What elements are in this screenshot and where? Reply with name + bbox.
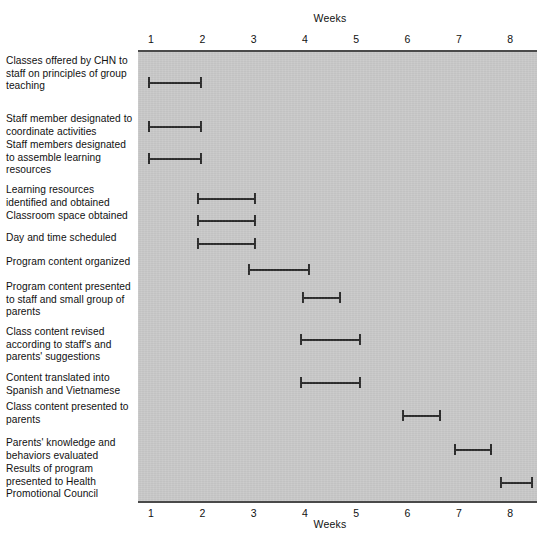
gantt-bar [197, 193, 256, 204]
gantt-bar-end-cap [359, 334, 361, 345]
task-label: Content translated into Spanish and Viet… [6, 372, 134, 397]
gantt-plot-area [138, 50, 537, 503]
gantt-bar [148, 153, 202, 164]
gantt-bar [197, 238, 256, 249]
x-axis-tick-top-3: 3 [242, 32, 266, 46]
gantt-bar-start-cap [148, 77, 150, 88]
gantt-bar-start-cap [500, 477, 502, 488]
task-label: Classroom space obtained [6, 210, 134, 223]
x-axis-tick-top-4: 4 [293, 32, 317, 46]
gantt-bar-end-cap [308, 264, 310, 275]
task-label: Classes offered by CHN to staff on princ… [6, 55, 134, 93]
gantt-bar-end-cap [200, 77, 202, 88]
gantt-bar [248, 264, 310, 275]
gantt-bar-end-cap [200, 153, 202, 164]
gantt-bar-end-cap [359, 377, 361, 388]
gantt-bar [148, 77, 202, 88]
gantt-bar-end-cap [490, 444, 492, 455]
gantt-bar-start-cap [302, 292, 304, 303]
gantt-bar-start-cap [248, 264, 250, 275]
gantt-bar [148, 121, 202, 132]
gantt-bar [402, 410, 440, 421]
gantt-bar-end-cap [439, 410, 441, 421]
gantt-bar [197, 215, 256, 226]
gantt-bar-line [500, 482, 533, 484]
task-label: Results of program presented to Health P… [6, 463, 134, 501]
gantt-bar-start-cap [300, 334, 302, 345]
x-axis-tick-top-7: 7 [447, 32, 471, 46]
gantt-bar-end-cap [531, 477, 533, 488]
gantt-bar [454, 444, 492, 455]
gantt-bar-line [197, 220, 256, 222]
top-axis-tick-row: 12345678 [0, 32, 552, 46]
gantt-bar-line [148, 82, 202, 84]
x-axis-tick-bottom-3: 3 [242, 506, 266, 520]
gantt-bar-line [300, 339, 362, 341]
task-label: Staff members designated to assemble lea… [6, 139, 134, 177]
gantt-bar-end-cap [200, 121, 202, 132]
x-axis-tick-bottom-7: 7 [447, 506, 471, 520]
x-axis-tick-top-5: 5 [344, 32, 368, 46]
gantt-bar-line [300, 382, 362, 384]
gantt-bar [500, 477, 533, 488]
gantt-bar-start-cap [454, 444, 456, 455]
gantt-bar-line [402, 415, 440, 417]
task-label: Day and time scheduled [6, 232, 134, 245]
gantt-chart-page: Weeks 12345678 Classes offered by CHN to… [0, 0, 552, 543]
x-axis-tick-top-6: 6 [396, 32, 420, 46]
gantt-bar [302, 292, 340, 303]
bottom-axis-tick-row: 12345678 [0, 506, 552, 520]
task-label-column: Classes offered by CHN to staff on princ… [0, 50, 134, 503]
task-label: Class content revised according to staff… [6, 326, 134, 364]
x-axis-tick-top-1: 1 [139, 32, 163, 46]
gantt-bar-start-cap [300, 377, 302, 388]
task-label: Staff member designated to coordinate ac… [6, 113, 134, 138]
gantt-bar-end-cap [254, 215, 256, 226]
gantt-bar-end-cap [254, 238, 256, 249]
x-axis-tick-top-2: 2 [190, 32, 214, 46]
x-axis-tick-bottom-6: 6 [396, 506, 420, 520]
task-label: Program content organized [6, 256, 134, 269]
x-axis-tick-bottom-2: 2 [190, 506, 214, 520]
x-axis-tick-top-8: 8 [498, 32, 522, 46]
gantt-bar-end-cap [254, 193, 256, 204]
task-label: Program content presented to staff and s… [6, 281, 134, 319]
gantt-bar-start-cap [402, 410, 404, 421]
gantt-bar-line [197, 198, 256, 200]
gantt-bar-line [248, 269, 310, 271]
gantt-bar-start-cap [148, 153, 150, 164]
gantt-bar [300, 334, 362, 345]
x-axis-tick-bottom-1: 1 [139, 506, 163, 520]
x-axis-tick-bottom-8: 8 [498, 506, 522, 520]
gantt-bar-line [148, 158, 202, 160]
gantt-bar-end-cap [339, 292, 341, 303]
bottom-axis-caption: Weeks [295, 518, 365, 530]
gantt-bar-line [302, 297, 340, 299]
gantt-bar-start-cap [148, 121, 150, 132]
gantt-bar-line [197, 243, 256, 245]
top-axis-caption: Weeks [295, 12, 365, 24]
gantt-bar [300, 377, 362, 388]
task-label: Class content presented to parents [6, 401, 134, 426]
gantt-bar-line [454, 449, 492, 451]
gantt-bar-start-cap [197, 215, 199, 226]
gantt-bar-start-cap [197, 238, 199, 249]
gantt-bar-line [148, 126, 202, 128]
gantt-bar-start-cap [197, 193, 199, 204]
task-label: Parents' knowledge and behaviors evaluat… [6, 437, 134, 462]
task-label: Learning resources identified and obtain… [6, 184, 134, 209]
